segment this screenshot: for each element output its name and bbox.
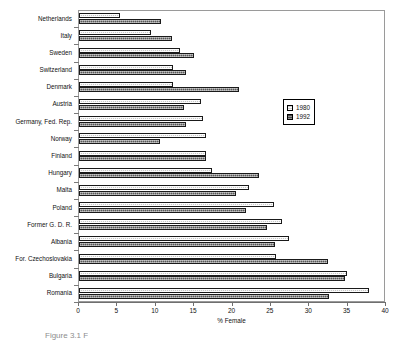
category-tick [74,79,79,80]
category-label: Italy [60,32,72,39]
legend-swatch-1992-icon [287,114,293,120]
bar-1992 [79,173,259,178]
bar-1992 [79,225,267,230]
figure-container: NetherlandsItalySwedenSwitzerlandDenmark… [0,0,393,343]
bar-1980 [79,82,173,87]
category-label: Netherlands [38,15,72,22]
x-tick-label: 40 [373,307,393,315]
category-axis: NetherlandsItalySwedenSwitzerlandDenmark… [0,10,76,302]
x-tick-label: 35 [335,307,359,315]
category-tick [74,199,79,200]
bar-1992 [79,19,161,24]
category-label: Hungary [48,169,72,176]
bar-1980 [79,168,212,173]
bar-1992 [79,242,275,247]
category-label: Poland [52,204,72,211]
bar-1980 [79,202,274,207]
x-tick-label: 25 [258,307,282,315]
category-tick [74,113,79,114]
figure-caption: Figure 3.1 F [45,331,88,343]
bar-1980 [79,185,249,190]
category-label: Austria [52,100,72,107]
x-tick-label: 20 [220,307,244,315]
bar-1980 [79,219,282,224]
x-tick [385,302,386,306]
bar-1980 [79,254,276,259]
category-label: Romania [47,289,72,296]
category-label: Sweden [49,49,72,56]
legend-label-1980: 1980 [296,104,310,111]
x-tick [155,302,156,306]
category-tick [74,62,79,63]
x-tick-label: 10 [143,307,167,315]
bar-1980 [79,13,120,18]
category-tick [74,27,79,28]
bar-1992 [79,53,194,58]
bar-1980 [79,288,369,293]
category-tick [74,216,79,217]
bar-1992 [79,70,186,75]
category-tick [74,44,79,45]
category-tick [74,96,79,97]
x-tick-label: 15 [181,307,205,315]
x-tick [308,302,309,306]
bar-1980 [79,30,151,35]
bar-1980 [79,65,173,70]
bar-1992 [79,156,206,161]
category-label: Germany, Fed. Rep. [15,118,72,125]
category-tick [74,233,79,234]
category-tick [74,302,79,303]
x-axis-title: % Female [78,317,385,324]
bar-1992 [79,105,184,110]
legend: 1980 1992 [283,99,315,125]
x-tick-label: 5 [104,307,128,315]
bar-1992 [79,122,186,127]
legend-item: 1992 [287,112,310,121]
category-label: Malta [57,186,72,193]
x-tick [347,302,348,306]
bar-1992 [79,208,246,213]
category-tick [74,165,79,166]
bar-1980 [79,151,206,156]
category-label: Denmark [46,83,72,90]
x-tick [270,302,271,306]
x-tick [193,302,194,306]
bar-1980 [79,99,201,104]
bar-1980 [79,236,289,241]
category-label: Former G. D. R. [27,221,72,228]
category-tick [74,182,79,183]
x-tick-label: 30 [296,307,320,315]
category-tick [74,147,79,148]
bar-1980 [79,133,206,138]
category-tick [74,130,79,131]
legend-label-1992: 1992 [296,113,310,120]
bar-1980 [79,116,203,121]
bar-1992 [79,276,345,281]
bar-1992 [79,36,172,41]
bar-1992 [79,87,239,92]
category-label: Albania [51,238,72,245]
category-tick [74,285,79,286]
category-label: Finland [51,152,72,159]
legend-item: 1980 [287,103,310,112]
x-tick-label: 0 [66,307,90,315]
category-tick [74,250,79,251]
bar-1992 [79,191,236,196]
bar-1992 [79,139,160,144]
bar-1992 [79,259,328,264]
legend-swatch-1980-icon [287,105,293,111]
bar-1980 [79,48,180,53]
category-label: For. Czechoslovakia [15,255,72,262]
bar-1992 [79,294,329,299]
bar-1980 [79,271,347,276]
x-tick [232,302,233,306]
category-label: Norway [51,135,72,142]
category-label: Bulgaria [49,272,72,279]
x-tick [116,302,117,306]
category-label: Switzerland [39,66,72,73]
category-tick [74,268,79,269]
